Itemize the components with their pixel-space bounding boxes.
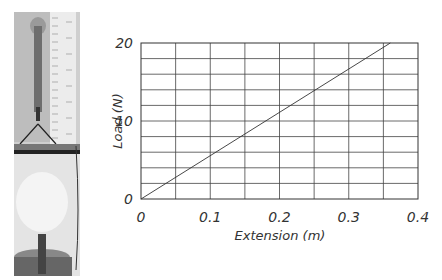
x-axis-label: Extension (m) [235,228,326,243]
svg-text:0.4: 0.4 [407,209,429,225]
svg-text:0.3: 0.3 [338,209,360,225]
x-tick-labels: 00.10.20.30.4 [137,209,430,225]
svg-text:0.2: 0.2 [268,209,290,225]
chart-grid [141,43,418,199]
svg-text:20: 20 [115,35,133,51]
y-axis-label: Load (N) [110,93,125,148]
svg-text:0: 0 [124,191,133,207]
svg-text:0.1: 0.1 [199,209,221,225]
load-extension-chart: 00.10.20.30.4 01020 Extension (m) Load (… [0,0,442,280]
svg-text:0: 0 [137,209,146,225]
